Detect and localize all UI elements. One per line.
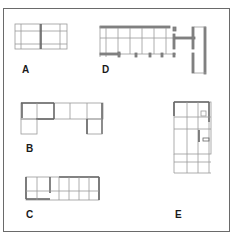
plan-b (21, 103, 103, 134)
plan-label-d: D (102, 64, 109, 75)
plan-c (26, 177, 99, 200)
plan-label-b: B (26, 143, 33, 154)
plan-a (15, 24, 67, 49)
plan-label-c: C (26, 209, 33, 220)
plan-d (100, 26, 206, 74)
plan-e (174, 102, 211, 173)
plan-label-e: E (175, 209, 182, 220)
plan-label-a: A (22, 64, 29, 75)
floor-plans-diagram (0, 0, 235, 238)
